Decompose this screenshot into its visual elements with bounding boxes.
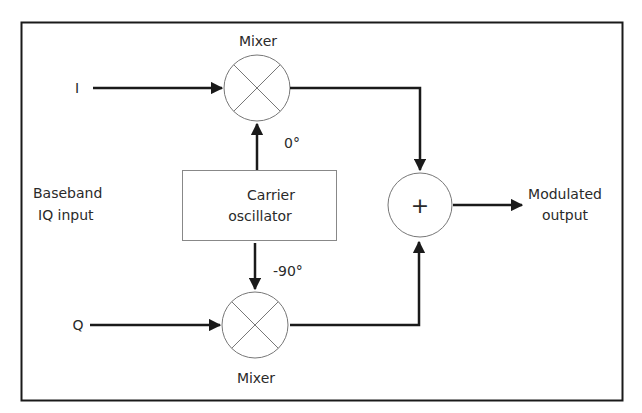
baseband-label-line2: IQ input [38, 207, 94, 223]
output-label-line1: Modulated [528, 186, 602, 202]
input-q-label: Q [72, 317, 83, 333]
baseband-label-line1: Baseband [33, 185, 102, 201]
output-label-line2: output [542, 207, 589, 223]
oscillator-label-line1: Carrier [247, 187, 295, 203]
mixer-q [222, 292, 288, 358]
phase-top-label: 0° [284, 135, 300, 151]
input-i-label: I [75, 80, 79, 96]
summer-plus-symbol: + [411, 193, 429, 218]
mixer-q-output-line [290, 242, 419, 325]
iq-modulator-diagram: Mixer I 0° Carrier oscillator Baseband I… [0, 0, 642, 413]
mixer-i [224, 55, 290, 121]
mixer-bottom-label: Mixer [237, 370, 275, 386]
phase-bottom-label: -90° [273, 263, 303, 279]
carrier-oscillator-block [183, 171, 337, 241]
oscillator-label-line2: oscillator [228, 208, 292, 224]
mixer-i-output-line [290, 88, 420, 170]
mixer-top-label: Mixer [239, 33, 277, 49]
